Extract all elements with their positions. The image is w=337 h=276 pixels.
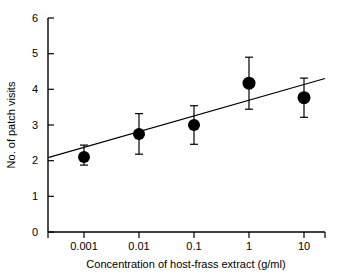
y-tick-label: 2 <box>32 154 38 166</box>
y-axis-ticks <box>48 18 54 232</box>
x-axis-ticks <box>48 232 325 238</box>
x-tick-label: 0.001 <box>70 240 98 252</box>
figure-container: 6 5 4 3 2 1 0 <box>0 0 337 276</box>
y-axis-title: No. of patch visits <box>5 81 17 168</box>
scatter-plot: 6 5 4 3 2 1 0 <box>0 0 337 276</box>
y-tick-label: 4 <box>32 83 38 95</box>
data-point <box>133 114 145 155</box>
y-tick-label: 0 <box>32 226 38 238</box>
trend-line <box>48 79 325 158</box>
x-axis-title: Concentration of host-frass extract (g/m… <box>86 258 285 270</box>
data-point <box>188 106 200 145</box>
x-tick-labels: 0.001 0.01 0.1 1 10 <box>70 240 310 252</box>
x-tick-label: 0.1 <box>186 240 201 252</box>
y-tick-label: 3 <box>32 119 38 131</box>
x-tick-label: 1 <box>246 240 252 252</box>
y-tick-labels: 6 5 4 3 2 1 0 <box>32 12 38 238</box>
y-tick-label: 5 <box>32 47 38 59</box>
data-point <box>298 78 311 117</box>
y-tick-label: 1 <box>32 190 38 202</box>
y-tick-label: 6 <box>32 12 38 24</box>
x-tick-label: 10 <box>298 240 310 252</box>
x-tick-label: 0.01 <box>128 240 149 252</box>
